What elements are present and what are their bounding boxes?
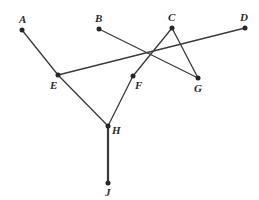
point-label-a: A: [19, 14, 26, 25]
point-label-b: B: [95, 13, 102, 24]
point-label-f: F: [135, 80, 142, 91]
geometry-diagram: ABCDEFGHJ: [0, 0, 259, 200]
point-e: [56, 73, 61, 78]
point-layer: [20, 26, 248, 186]
point-label-h: H: [112, 125, 121, 136]
point-label-j: J: [105, 187, 111, 198]
point-c: [170, 26, 175, 31]
segment-c-f: [133, 28, 172, 76]
segment-e-h: [58, 75, 108, 126]
segment-layer: [22, 28, 245, 183]
point-label-e: E: [50, 80, 57, 91]
point-f: [131, 74, 136, 79]
segment-a-e: [22, 30, 58, 75]
diagram-canvas: [0, 0, 259, 200]
point-j: [106, 181, 111, 186]
point-label-c: C: [168, 12, 175, 23]
point-label-g: G: [194, 83, 202, 94]
segment-f-h: [108, 76, 133, 126]
point-d: [243, 26, 248, 31]
point-h: [106, 124, 111, 129]
segment-c-g: [172, 28, 198, 78]
point-a: [20, 28, 25, 33]
point-label-d: D: [240, 12, 248, 23]
segment-e-d: [58, 28, 245, 75]
point-g: [196, 76, 201, 81]
segment-b-g: [99, 29, 198, 78]
point-b: [97, 27, 102, 32]
